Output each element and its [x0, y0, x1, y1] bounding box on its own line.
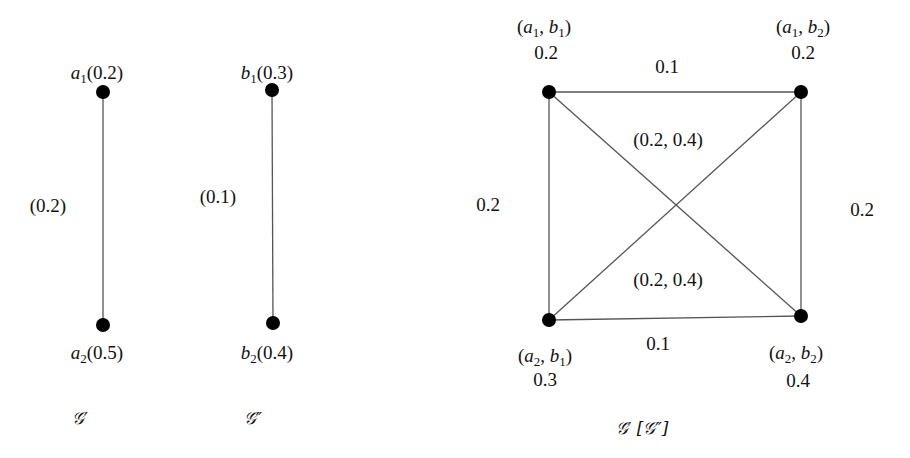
product-node-label-a2b2: (a2, b2) [769, 343, 823, 362]
g1-caption: 𝒢′ [72, 410, 88, 427]
nodes-layer [96, 83, 808, 332]
g2-node-label-b1: b1(0.3) [241, 63, 293, 82]
g2-node-b2 [266, 316, 280, 330]
g1-edge-label-a1-a2: (0.2) [30, 196, 66, 215]
g1-node-label-a1: a1(0.2) [71, 63, 123, 82]
edges-layer [103, 90, 801, 325]
product-node-value-a1b2: 0.2 [791, 43, 815, 62]
product-node-a1b1 [542, 85, 556, 99]
g1-node-a1 [96, 85, 110, 99]
product-node-a1b2 [794, 85, 808, 99]
product-node-value-a2b2: 0.4 [786, 371, 810, 390]
product-node-value-a1b1: 0.2 [534, 43, 558, 62]
g2-node-b1 [265, 83, 279, 97]
product-edge-label-a2b1-a2b2: 0.1 [646, 334, 670, 353]
product-edge-a2b1-a2b2 [549, 316, 801, 320]
g2-node-label-b2: b2(0.4) [241, 343, 293, 362]
product-node-label-a1b2: (a1, b2) [776, 17, 830, 36]
g1-node-label-a2: a2(0.5) [71, 343, 123, 362]
product-caption: 𝒢′ [𝒢″] [616, 420, 669, 437]
product-edge-label-a1b1-a2b2: (0.2, 0.4) [633, 130, 703, 149]
product-node-label-a2b1: (a2, b1) [518, 346, 572, 365]
product-node-label-a1b1: (a1, b1) [517, 17, 571, 36]
product-node-value-a2b1: 0.3 [533, 370, 557, 389]
diagram-canvas [0, 0, 910, 458]
g2-edge-b1-b2 [272, 90, 273, 323]
g2-caption: 𝒢″ [244, 410, 262, 427]
product-node-a2b1 [542, 313, 556, 327]
product-node-a2b2 [794, 309, 808, 323]
g1-node-a2 [96, 318, 110, 332]
product-edge-label-a1b2-a2b1: (0.2, 0.4) [633, 270, 703, 289]
g2-edge-label-b1-b2: (0.1) [200, 187, 236, 206]
product-edge-label-a1b2-a2b2: 0.2 [850, 200, 874, 219]
product-edge-label-a1b1-a1b2: 0.1 [655, 57, 679, 76]
product-edge-label-a1b1-a2b1: 0.2 [476, 195, 500, 214]
